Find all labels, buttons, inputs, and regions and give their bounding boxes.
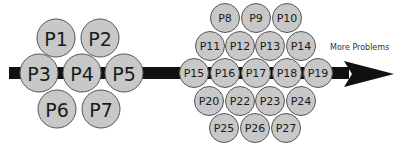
problems-diagram: P1P2P3P4P5P6P7P8P9P10P11P12P13P14P15P16P… <box>0 0 401 153</box>
problem-label: P26 <box>245 122 266 135</box>
problem-label: P23 <box>260 95 281 108</box>
problem-node-p2: P2 <box>81 19 119 57</box>
problem-label: P14 <box>291 40 312 53</box>
diagram-svg: P1P2P3P4P5P6P7P8P9P10P11P12P13P14P15P16P… <box>0 0 401 153</box>
problem-node-p16: P16 <box>211 59 240 88</box>
problem-label: P7 <box>89 99 113 121</box>
problem-label: P2 <box>88 28 112 50</box>
problem-label: P18 <box>277 67 298 80</box>
problem-node-p10: P10 <box>273 4 302 33</box>
problem-node-p20: P20 <box>195 87 224 116</box>
problem-node-p12: P12 <box>226 32 255 61</box>
problem-label: P20 <box>199 95 220 108</box>
problem-label: P8 <box>218 12 232 25</box>
problem-label: P4 <box>70 63 94 85</box>
problem-node-p17: P17 <box>242 59 271 88</box>
problem-node-p26: P26 <box>241 114 270 143</box>
problem-node-p27: P27 <box>272 114 301 143</box>
problem-label: P13 <box>260 40 281 53</box>
problem-label: P12 <box>230 40 251 53</box>
problem-label: P19 <box>308 67 329 80</box>
problem-label: P17 <box>246 67 267 80</box>
problem-label: P9 <box>249 12 263 25</box>
problem-label: P10 <box>277 12 298 25</box>
problem-node-p7: P7 <box>82 90 120 128</box>
problem-node-p9: P9 <box>242 4 271 33</box>
problem-label: P22 <box>230 95 251 108</box>
problem-node-p5: P5 <box>105 54 143 92</box>
problem-label: P3 <box>27 63 51 85</box>
problem-label: P1 <box>44 28 68 50</box>
problem-node-p8: P8 <box>211 4 240 33</box>
initial-problems-group: P1P2P3P4P5P6P7 <box>20 19 143 128</box>
problem-node-p1: P1 <box>37 19 75 57</box>
problem-node-p11: P11 <box>196 32 225 61</box>
problem-label: P27 <box>276 122 297 135</box>
problem-node-p6: P6 <box>38 90 76 128</box>
problem-label: P16 <box>215 67 236 80</box>
problem-node-p13: P13 <box>256 32 285 61</box>
problem-label: P15 <box>184 67 205 80</box>
problem-node-p23: P23 <box>256 87 285 116</box>
problem-node-p14: P14 <box>287 32 316 61</box>
problem-node-p4: P4 <box>63 54 101 92</box>
arrow-head-icon <box>344 61 394 87</box>
problem-node-p19: P19 <box>304 59 333 88</box>
problem-label: P6 <box>45 99 69 121</box>
problem-node-p22: P22 <box>226 87 255 116</box>
problem-node-p24: P24 <box>287 87 316 116</box>
problem-label: P11 <box>200 40 221 53</box>
problem-node-p15: P15 <box>180 59 209 88</box>
more-problems-label: More Problems <box>330 43 389 52</box>
problem-label: P24 <box>291 95 312 108</box>
problem-node-p3: P3 <box>20 54 58 92</box>
problem-node-p18: P18 <box>273 59 302 88</box>
problem-node-p25: P25 <box>210 114 239 143</box>
problem-label: P25 <box>214 122 235 135</box>
problem-label: P5 <box>112 63 136 85</box>
more-problems-group: P8P9P10P11P12P13P14P15P16P17P18P19P20P22… <box>180 4 333 143</box>
